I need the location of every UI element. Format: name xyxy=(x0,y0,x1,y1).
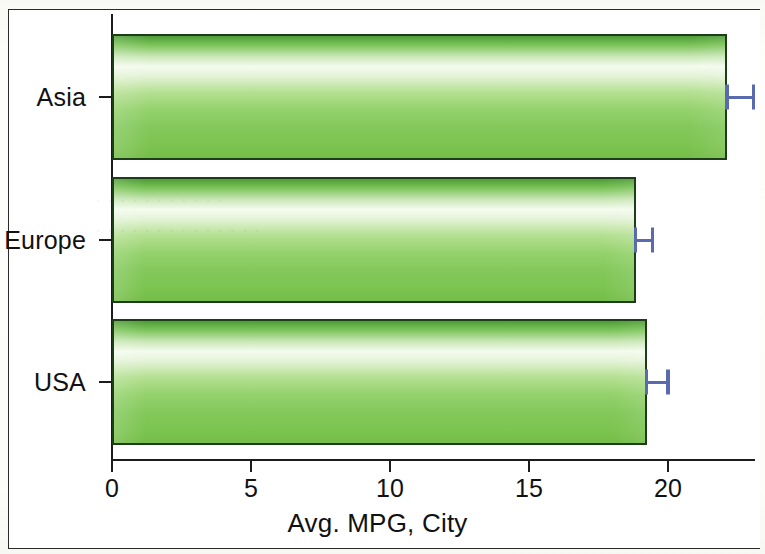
x-tick-label-10: 10 xyxy=(376,474,404,503)
bar-usa xyxy=(112,319,647,445)
error-bar-stem-usa xyxy=(647,381,669,384)
bar-chart: 0 5 10 15 20 Asia Europe USA Avg. MPG, C… xyxy=(0,0,765,554)
error-bar-cap-europe xyxy=(651,228,654,253)
bar-sheen-usa xyxy=(114,321,645,443)
x-axis-title: Avg. MPG, City xyxy=(0,508,755,539)
x-tick-mark-0 xyxy=(111,461,113,472)
y-tick-label-asia: Asia xyxy=(37,83,86,112)
x-tick-mark-20 xyxy=(667,461,669,472)
bar-sheen-europe xyxy=(114,179,634,301)
x-tick-mark-5 xyxy=(250,461,252,472)
x-tick-label-5: 5 xyxy=(244,474,258,503)
error-bar-stem-asia xyxy=(727,96,753,99)
error-bar-cap-usa xyxy=(666,370,669,395)
bar-sheen-asia xyxy=(114,36,725,158)
x-axis-line xyxy=(111,459,755,461)
x-tick-label-15: 15 xyxy=(515,474,543,503)
y-tick-label-usa: USA xyxy=(34,368,86,397)
bar-asia xyxy=(112,34,727,160)
x-tick-label-20: 20 xyxy=(654,474,682,503)
x-tick-label-0: 0 xyxy=(105,474,119,503)
x-tick-mark-10 xyxy=(389,461,391,472)
x-tick-mark-15 xyxy=(528,461,530,472)
bar-europe xyxy=(112,177,636,303)
y-tick-mark-asia xyxy=(99,96,112,98)
error-bar-cap-asia xyxy=(752,85,755,110)
y-tick-mark-usa xyxy=(99,381,112,383)
y-tick-mark-europe xyxy=(99,239,112,241)
y-tick-label-europe: Europe xyxy=(4,226,86,255)
